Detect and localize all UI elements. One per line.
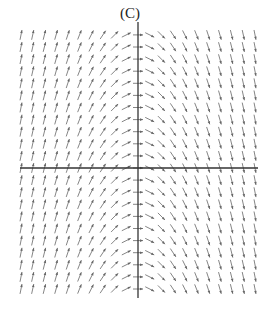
slope-arrow [122, 69, 131, 73]
slope-arrow-head [79, 284, 81, 287]
slope-arrow [89, 212, 93, 221]
slope-arrow [43, 260, 46, 270]
slope-arrow-head [79, 212, 81, 215]
slope-arrow [20, 248, 23, 258]
slope-arrow [145, 105, 154, 109]
slope-arrow-head [208, 121, 210, 124]
slope-arrow-head [79, 42, 81, 45]
slope-arrow-head [208, 48, 210, 51]
slope-arrow [242, 78, 245, 88]
slope-arrow [158, 177, 165, 184]
slope-arrow [207, 272, 210, 281]
slope-arrow [122, 154, 131, 158]
slope-arrow [183, 224, 187, 233]
slope-arrow [242, 272, 245, 282]
slope-arrow [219, 284, 222, 294]
slope-arrow-head [196, 133, 198, 136]
slope-arrow [32, 284, 35, 294]
slope-arrow [78, 248, 82, 257]
slope-arrow-head [67, 236, 69, 239]
slope-arrow [78, 67, 82, 76]
slope-arrow [100, 212, 106, 220]
slope-arrow [32, 272, 35, 282]
slope-arrow [170, 128, 176, 136]
slope-arrow [254, 115, 257, 125]
slope-arrow [195, 30, 199, 39]
slope-arrow [100, 261, 106, 269]
slope-arrow-head [196, 206, 198, 209]
slope-arrow [122, 129, 131, 133]
slope-arrow [122, 250, 131, 254]
slope-arrow-head [140, 94, 143, 97]
slope-arrow [158, 128, 165, 135]
slope-arrow [254, 272, 257, 282]
slope-arrow [183, 127, 187, 136]
slope-arrow-head [55, 91, 57, 94]
slope-arrow-head [79, 236, 81, 239]
slope-arrow [254, 90, 257, 100]
slope-arrow [254, 260, 257, 270]
slope-arrow [254, 30, 257, 40]
slope-arrow-head [196, 121, 198, 124]
slope-arrow [122, 263, 131, 267]
slope-arrow [43, 175, 46, 185]
slope-arrow [89, 176, 93, 185]
slope-arrow [254, 199, 257, 209]
slope-arrow [254, 78, 257, 88]
slope-arrow [158, 56, 165, 63]
slope-arrow [145, 226, 154, 230]
slope-arrow-head [219, 291, 221, 294]
slope-arrow [195, 91, 199, 100]
slope-arrow [242, 42, 245, 52]
slope-arrow [78, 91, 82, 100]
slope-arrow [183, 79, 187, 88]
slope-arrow-head [140, 155, 143, 158]
slope-arrow [43, 127, 46, 137]
slope-arrow [100, 236, 106, 244]
slope-arrow [145, 129, 154, 133]
slope-arrow-head [219, 97, 221, 100]
slope-arrow [43, 248, 46, 258]
slope-arrow-head [67, 127, 69, 130]
slope-arrow [254, 103, 257, 113]
slope-arrow [32, 139, 35, 149]
slope-arrow-head [219, 242, 221, 245]
slope-arrow [66, 236, 69, 245]
slope-arrow [66, 175, 69, 184]
slope-arrow [254, 54, 257, 64]
slope-arrow-head [196, 145, 198, 148]
slope-arrow-head [67, 79, 69, 82]
slope-arrow [242, 224, 245, 234]
slope-arrow [219, 248, 222, 258]
slope-arrow-head [208, 206, 210, 209]
slope-arrow-head [79, 188, 81, 191]
slope-arrow [158, 152, 165, 159]
slope-arrow-head [140, 34, 143, 37]
slope-arrow-head [55, 127, 57, 130]
slope-arrow-head [219, 266, 221, 269]
slope-arrow [78, 139, 82, 148]
slope-arrow [89, 236, 93, 245]
slope-arrow [89, 285, 93, 294]
slope-arrow-head [196, 60, 198, 63]
slope-arrow-head [140, 288, 143, 291]
slope-arrow [158, 261, 165, 268]
slope-arrow [183, 272, 187, 281]
slope-arrow [242, 66, 245, 76]
slope-arrow [158, 285, 165, 292]
slope-arrow [78, 42, 82, 51]
slope-arrow [111, 92, 118, 99]
slope-arrow [43, 103, 46, 113]
slope-arrow [158, 92, 165, 99]
slope-arrow-head [55, 224, 57, 227]
slope-arrow-head [219, 254, 221, 257]
slope-arrow [170, 31, 176, 39]
slope-arrow [20, 187, 23, 197]
slope-arrow [195, 248, 199, 257]
slope-arrow-head [140, 239, 143, 242]
slope-arrow-head [55, 199, 57, 202]
slope-arrow-head [208, 157, 210, 160]
slope-arrow [20, 90, 23, 100]
slope-arrow [195, 200, 199, 209]
slope-arrow [32, 248, 35, 258]
